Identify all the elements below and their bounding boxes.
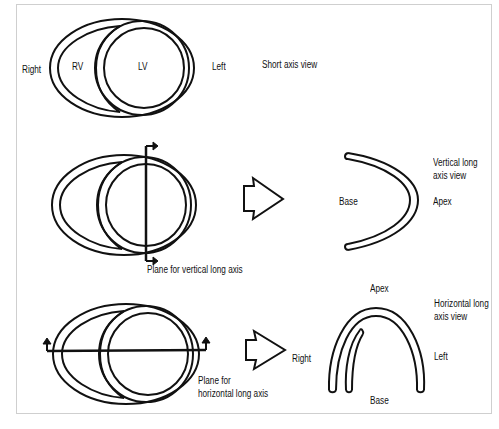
vertical-plane-heart — [52, 155, 196, 255]
plane-horizontal-long-axis-label-line1: Plane for — [198, 375, 231, 387]
label-left-horizontal: Left — [434, 351, 448, 363]
label-base-horizontal: Base — [370, 395, 389, 407]
label-right: Right — [22, 64, 41, 76]
horizontal-long-axis-view-label-line1: Horizontal long — [434, 298, 489, 310]
label-apex-vertical: Apex — [433, 196, 452, 208]
horizontal-long-axis-view-label-line2: axis view — [434, 311, 467, 323]
label-base-vertical: Base — [339, 196, 358, 208]
short-axis-view-label: Short axis view — [262, 59, 317, 71]
label-right-horizontal: Right — [292, 353, 311, 365]
plane-horizontal-long-axis-label-line2: horizontal long axis — [198, 388, 268, 400]
vertical-long-axis-view-label-line1: Vertical long — [433, 157, 478, 169]
horizontal-plane-heart — [53, 304, 199, 404]
label-left: Left — [212, 61, 226, 73]
arrow-to-horizontal-view-icon — [246, 331, 285, 369]
label-apex-horizontal: Apex — [370, 283, 389, 295]
vertical-long-axis-view-label-line2: axis view — [433, 170, 466, 182]
label-rv: RV — [72, 61, 83, 73]
plane-vertical-long-axis-label: Plane for vertical long axis — [147, 264, 243, 276]
arrow-to-vertical-view-icon — [244, 178, 283, 219]
label-lv: LV — [138, 61, 147, 73]
horizontal-long-axis-shape — [329, 308, 424, 392]
